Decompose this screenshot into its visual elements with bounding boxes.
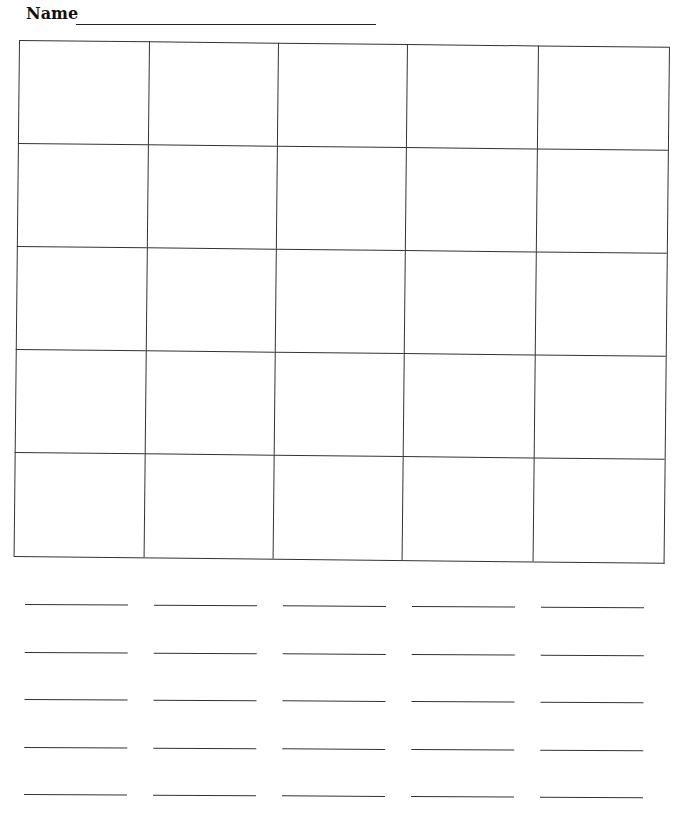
grid-cell[interactable] bbox=[534, 354, 666, 458]
answer-line[interactable] bbox=[282, 700, 385, 702]
answer-line[interactable] bbox=[541, 607, 644, 609]
grid-cell[interactable] bbox=[535, 251, 667, 355]
answer-line[interactable] bbox=[412, 654, 515, 656]
answer-line[interactable] bbox=[282, 795, 385, 797]
answer-row bbox=[24, 794, 664, 834]
answer-row bbox=[25, 651, 665, 702]
grid-cell[interactable] bbox=[402, 456, 534, 561]
answer-line[interactable] bbox=[283, 605, 386, 607]
blank-grid bbox=[14, 40, 670, 564]
grid-cell[interactable] bbox=[16, 246, 147, 350]
grid-cell[interactable] bbox=[537, 45, 669, 149]
answer-line[interactable] bbox=[283, 653, 386, 655]
answer-line[interactable] bbox=[153, 795, 256, 797]
grid-cell[interactable] bbox=[144, 453, 274, 558]
name-label: Name bbox=[26, 4, 78, 23]
answer-line[interactable] bbox=[540, 797, 643, 799]
answer-line[interactable] bbox=[154, 652, 257, 654]
answer-row bbox=[25, 604, 665, 655]
grid-cell[interactable] bbox=[403, 353, 535, 457]
grid-cell[interactable] bbox=[14, 452, 145, 557]
answer-line[interactable] bbox=[540, 749, 643, 751]
grid-cell[interactable] bbox=[148, 41, 278, 145]
answer-line[interactable] bbox=[25, 651, 128, 653]
grid-cell[interactable] bbox=[277, 43, 407, 147]
answer-line[interactable] bbox=[540, 702, 643, 704]
answer-line[interactable] bbox=[24, 746, 127, 748]
grid-cell[interactable] bbox=[406, 44, 538, 148]
answer-row bbox=[24, 699, 664, 750]
grid-cell[interactable] bbox=[533, 457, 665, 562]
grid-cell[interactable] bbox=[147, 144, 277, 248]
answer-line[interactable] bbox=[411, 749, 514, 751]
answer-line[interactable] bbox=[153, 700, 256, 702]
answer-line[interactable] bbox=[541, 654, 644, 656]
grid-cell[interactable] bbox=[145, 350, 275, 454]
grid-cell[interactable] bbox=[405, 147, 537, 251]
answer-row bbox=[24, 746, 664, 797]
answer-line[interactable] bbox=[411, 796, 514, 798]
answer-line[interactable] bbox=[154, 605, 257, 607]
grid-cell[interactable] bbox=[273, 455, 403, 560]
answer-line[interactable] bbox=[282, 748, 385, 750]
grid-cell[interactable] bbox=[276, 146, 406, 250]
answer-line[interactable] bbox=[25, 604, 128, 606]
answer-line[interactable] bbox=[24, 699, 127, 701]
grid-cell[interactable] bbox=[275, 249, 405, 353]
answer-line[interactable] bbox=[153, 747, 256, 749]
grid-cell[interactable] bbox=[15, 349, 146, 453]
grid-cell[interactable] bbox=[18, 40, 149, 144]
grid-cell[interactable] bbox=[274, 352, 404, 456]
grid-cell[interactable] bbox=[536, 148, 668, 252]
answer-line[interactable] bbox=[24, 794, 127, 796]
grid-cell[interactable] bbox=[17, 143, 148, 247]
answer-lines bbox=[24, 604, 665, 834]
grid-cell[interactable] bbox=[146, 247, 276, 351]
grid-cell[interactable] bbox=[404, 250, 536, 354]
answer-line[interactable] bbox=[411, 701, 514, 703]
answer-line[interactable] bbox=[412, 606, 515, 608]
name-field[interactable] bbox=[76, 24, 376, 25]
